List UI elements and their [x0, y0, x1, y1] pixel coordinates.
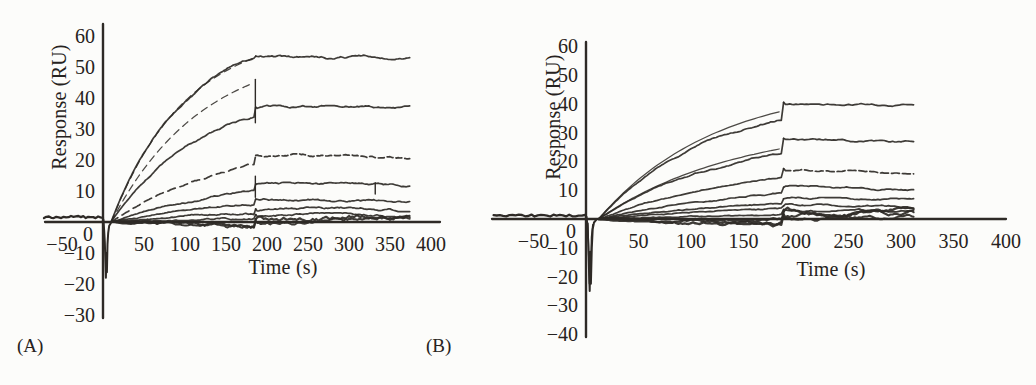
panel-b-x-axis-title: Time (s) [796, 258, 865, 281]
spr-sensorgram-figure: 6050403020100−10−20−30−50501001502002503… [0, 0, 1036, 385]
sensorgram-curve [784, 186, 914, 191]
panel-b-label: (B) [426, 335, 451, 357]
sensorgram-curve [784, 138, 914, 142]
x-tick-label: −50 [518, 230, 549, 252]
x-tick-label: 50 [629, 230, 649, 252]
sensorgram-curve [784, 102, 914, 106]
baseline-segment [494, 215, 585, 217]
x-tick-label: 100 [676, 230, 706, 252]
x-tick-label: 250 [834, 230, 864, 252]
x-tick-label: 350 [939, 230, 969, 252]
y-tick-label: −10 [547, 237, 578, 259]
panel-b-plot: 6050403020100−10−20−30−40−50501001502002… [0, 0, 1036, 385]
y-tick-label: −30 [547, 294, 578, 316]
y-tick-label: 10 [558, 179, 578, 201]
sensorgram-curve [599, 138, 784, 219]
x-tick-label: 400 [991, 230, 1021, 252]
y-tick-label: −40 [547, 323, 578, 345]
sensorgram-curve [784, 169, 914, 174]
panel-b-y-axis-title: Response (RU) [542, 54, 565, 179]
x-tick-label: 150 [729, 230, 759, 252]
x-tick-label: 300 [886, 230, 916, 252]
sensorgram-curve [784, 204, 914, 209]
x-tick-label: 200 [781, 230, 811, 252]
sensorgram-curve [784, 197, 914, 200]
y-tick-label: −20 [547, 266, 578, 288]
